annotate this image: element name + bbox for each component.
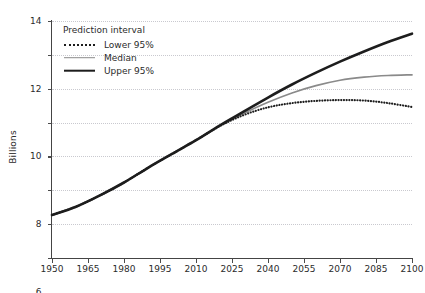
- x-tick: [88, 258, 89, 263]
- series-line-median: [52, 75, 412, 215]
- x-tick: [340, 258, 341, 263]
- x-tick: [232, 258, 233, 263]
- x-tick: [160, 258, 161, 263]
- x-tick: [304, 258, 305, 263]
- x-tick: [124, 258, 125, 263]
- legend-swatch-lower-95: [62, 39, 97, 51]
- legend-item-upper-95[interactable]: Upper 95%: [62, 64, 154, 77]
- legend-label-lower-95: Lower 95%: [104, 40, 154, 50]
- x-tick: [376, 258, 377, 263]
- x-tick: [268, 258, 269, 263]
- population-projection-chart: Billions 02468101214 1950196519801995201…: [0, 0, 425, 293]
- x-tick-label: 2025: [221, 264, 244, 274]
- legend-label-median: Median: [104, 53, 137, 63]
- x-tick-label: 2085: [365, 264, 388, 274]
- legend-item-lower-95[interactable]: Lower 95%: [62, 38, 154, 51]
- legend-item-median[interactable]: Median: [62, 51, 154, 64]
- x-tick-label: 1995: [149, 264, 172, 274]
- plot-area: 02468101214 1950196519801995201020252040…: [52, 21, 412, 258]
- x-tick-label: 1980: [113, 264, 136, 274]
- x-tick-label: 2010: [185, 264, 208, 274]
- legend-title: Prediction interval: [62, 25, 154, 35]
- x-tick: [412, 258, 413, 263]
- legend-swatch-upper-95: [62, 65, 97, 77]
- legend-label-upper-95: Upper 95%: [104, 66, 154, 76]
- x-tick: [52, 258, 53, 263]
- y-axis-label-text: Billions: [8, 130, 18, 164]
- x-tick: [196, 258, 197, 263]
- legend-swatch-median: [62, 52, 97, 64]
- x-tick-label: 2070: [329, 264, 352, 274]
- y-tick-label: 12: [30, 84, 41, 94]
- x-tick-label: 2100: [401, 264, 424, 274]
- y-tick-label: 6: [36, 287, 42, 293]
- legend: Prediction interval Lower 95% Median Upp…: [62, 25, 154, 77]
- y-tick-label: 14: [30, 16, 41, 26]
- y-tick-label: 8: [36, 219, 42, 229]
- x-tick-label: 2055: [293, 264, 316, 274]
- x-tick-label: 1965: [77, 264, 100, 274]
- x-tick-label: 1950: [41, 264, 64, 274]
- y-tick-label: 10: [30, 151, 41, 161]
- y-axis-label: Billions: [4, 0, 22, 293]
- x-tick-label: 2040: [257, 264, 280, 274]
